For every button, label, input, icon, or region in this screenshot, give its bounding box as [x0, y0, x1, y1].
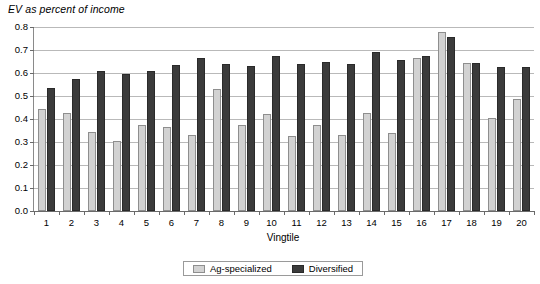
x-axis-tick-label: 4 [119, 218, 124, 228]
bar [222, 64, 230, 211]
bar-group [209, 27, 234, 211]
x-axis-tick-label: 2 [69, 218, 74, 228]
bar [72, 79, 80, 211]
bar-group [59, 27, 84, 211]
legend-item-label: Ag-specialized [210, 264, 272, 274]
x-axis-tick [159, 211, 160, 215]
bar-chart: EV as percent of income 0.00.10.20.30.40… [0, 0, 540, 284]
bar [163, 127, 171, 211]
x-axis-tick-label: 16 [416, 218, 427, 228]
bar [322, 62, 330, 212]
bar [47, 88, 55, 211]
bar-group [84, 27, 109, 211]
bar [413, 58, 421, 211]
bar [113, 141, 121, 211]
x-axis-tick [434, 211, 435, 215]
bar-group [259, 27, 284, 211]
bar [388, 133, 396, 211]
bar [88, 132, 96, 211]
x-axis-tick-label: 19 [491, 218, 502, 228]
x-axis-tick-label: 10 [266, 218, 277, 228]
bar-group [34, 27, 59, 211]
bar-group [234, 27, 259, 211]
bar-group [159, 27, 184, 211]
y-axis-tick-label: 0.0 [15, 206, 28, 216]
bar-group [309, 27, 334, 211]
bar-group [359, 27, 384, 211]
x-axis-tick [534, 211, 535, 215]
legend-item[interactable]: Diversified [292, 264, 353, 274]
x-axis-tick [184, 211, 185, 215]
x-axis-tick [134, 211, 135, 215]
bar [172, 65, 180, 211]
x-axis-tick [384, 211, 385, 215]
bar [247, 66, 255, 211]
bar [38, 109, 46, 211]
bar [63, 113, 71, 211]
bar [363, 113, 371, 211]
bar-group [109, 27, 134, 211]
x-axis-tick [359, 211, 360, 215]
x-axis-tick [234, 211, 235, 215]
x-axis-tick-label: 1 [44, 218, 49, 228]
bar [372, 52, 380, 211]
bar [338, 135, 346, 211]
bar [122, 74, 130, 211]
x-axis-tick [309, 211, 310, 215]
x-axis-tick-label: 3 [94, 218, 99, 228]
x-axis-tick-label: 15 [391, 218, 402, 228]
bar-group [384, 27, 409, 211]
bar-group [284, 27, 309, 211]
x-axis-tick [259, 211, 260, 215]
bar-group [509, 27, 534, 211]
y-axis-tick-label: 0.5 [15, 91, 28, 101]
bar-group [184, 27, 209, 211]
bar [238, 125, 246, 211]
y-axis-tick-label: 0.3 [15, 137, 28, 147]
dark-gray-swatch [292, 265, 304, 273]
bar-group [334, 27, 359, 211]
bar [272, 56, 280, 211]
bar [513, 99, 521, 211]
bar [522, 67, 530, 211]
bar [447, 37, 455, 211]
x-axis-tick [84, 211, 85, 215]
legend-item[interactable]: Ag-specialized [193, 264, 272, 274]
y-axis-tick-label: 0.4 [15, 114, 28, 124]
x-axis-tick-label: 18 [466, 218, 477, 228]
x-axis-tick-label: 7 [194, 218, 199, 228]
bar-group [134, 27, 159, 211]
chart-title: EV as percent of income [8, 3, 125, 15]
x-axis-tick-label: 13 [341, 218, 352, 228]
bar-group [409, 27, 434, 211]
x-axis-tick [109, 211, 110, 215]
x-axis-tick-label: 5 [144, 218, 149, 228]
x-axis-tick-label: 17 [441, 218, 452, 228]
x-axis-tick-label: 6 [169, 218, 174, 228]
light-gray-swatch [193, 265, 205, 273]
bar [197, 58, 205, 211]
legend-item-label: Diversified [309, 264, 353, 274]
y-axis-tick-label: 0.7 [15, 45, 28, 55]
bar [97, 71, 105, 211]
x-axis-tick-label: 9 [244, 218, 249, 228]
bar-group [434, 27, 459, 211]
bar [138, 125, 146, 211]
y-axis-tick-label: 0.2 [15, 160, 28, 170]
x-axis-tick [334, 211, 335, 215]
bar [188, 135, 196, 211]
bar [397, 60, 405, 211]
bar [313, 125, 321, 211]
x-axis-tick [459, 211, 460, 215]
x-axis-tick-label: 8 [219, 218, 224, 228]
bar [463, 63, 471, 211]
x-axis-tick-label: 14 [366, 218, 377, 228]
bar [497, 67, 505, 211]
x-axis-tick [484, 211, 485, 215]
bar [288, 136, 296, 211]
x-axis-tick [284, 211, 285, 215]
y-axis-tick-label: 0.1 [15, 183, 28, 193]
y-axis-tick-label: 0.8 [15, 22, 28, 32]
x-axis-tick [409, 211, 410, 215]
x-axis-tick [34, 211, 35, 215]
